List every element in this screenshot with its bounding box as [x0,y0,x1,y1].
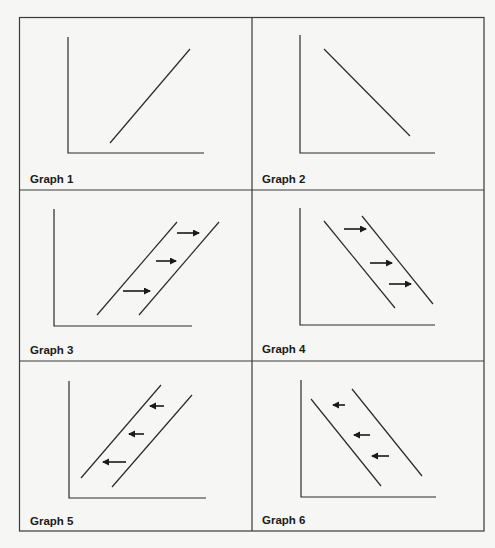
graph-3-panel [54,209,219,326]
graph-1-line-upward [110,49,190,143]
graph-3-axes [54,209,192,326]
graph-1-axes [68,37,204,153]
graph-4-axes [300,208,435,325]
graph-5-panel [69,381,206,498]
graph-2-panel [300,35,435,153]
graph-3-title: Graph 3 [30,343,73,357]
graph-6-title: Graph 6 [262,513,305,527]
graph-3-line-shifted [139,222,219,315]
graph-5-axes [69,381,206,498]
graph-4-line-original [324,221,395,308]
graph-4-title: Graph 4 [262,342,305,356]
graph-6-panel [301,380,436,497]
graph-5-line-original [112,395,192,487]
graph-5-title: Graph 5 [30,514,73,528]
graph-6-axes [301,380,436,497]
graph-2-line-downward [324,49,410,136]
graph-2-title: Graph 2 [262,172,305,186]
graph-1-panel [68,37,204,153]
graph-1-title: Graph 1 [30,172,73,186]
graph-grid-figure [0,0,495,548]
graph-5-line-shifted [81,385,161,478]
graph-4-line-shifted [362,216,433,304]
graph-4-panel [300,208,435,325]
graph-3-line-original [97,222,177,315]
graph-2-axes [300,35,435,153]
grid-frame [20,18,485,532]
